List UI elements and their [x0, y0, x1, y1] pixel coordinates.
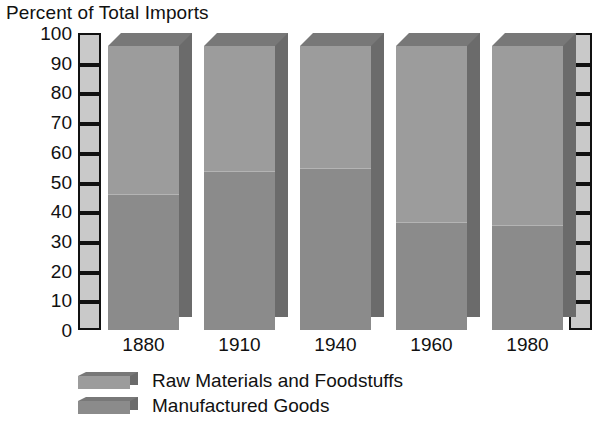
bar-segment-divider — [396, 222, 467, 223]
y-axis-tick-mark — [78, 92, 101, 96]
y-axis-tick-mark — [78, 63, 101, 67]
legend-swatch — [78, 397, 138, 414]
bar-segment-raw-materials[interactable] — [492, 46, 563, 225]
y-axis-left-scale — [78, 33, 101, 330]
x-axis-tick-label: 1980 — [506, 334, 548, 356]
legend-item[interactable]: Raw Materials and Foodstuffs — [78, 368, 558, 393]
bar-column-1880[interactable] — [108, 33, 192, 330]
y-axis-tick-mark — [78, 152, 101, 156]
x-axis-tick-label: 1960 — [410, 334, 452, 356]
bar-column-1910[interactable] — [204, 33, 288, 330]
bar-front-face — [396, 46, 467, 330]
bar-segment-divider — [300, 168, 371, 169]
y-axis-tick-labels: 1009080706050403020100 — [6, 26, 72, 338]
y-axis-tick-mark — [78, 271, 101, 275]
legend-swatch — [78, 372, 138, 389]
y-axis-tick-mark — [78, 211, 101, 215]
x-axis-tick-label: 1910 — [218, 334, 260, 356]
y-axis-tick-mark — [78, 300, 101, 304]
y-axis-tick-label: 30 — [51, 231, 72, 250]
x-axis-tick-label: 1880 — [122, 334, 164, 356]
legend-swatch-top — [78, 397, 138, 402]
legend-swatch-front — [78, 401, 130, 414]
bar-column-1940[interactable] — [300, 33, 384, 330]
y-axis-tick-mark — [78, 241, 101, 245]
bar-segment-manufactured-goods[interactable] — [300, 168, 371, 330]
legend-label: Manufactured Goods — [152, 395, 329, 417]
plot-area — [78, 33, 592, 330]
y-axis-tick-label: 40 — [51, 202, 72, 221]
bar-front-face — [204, 46, 275, 330]
y-axis-tick-label: 0 — [61, 321, 72, 340]
bar-segment-raw-materials[interactable] — [300, 46, 371, 168]
bar-front-face — [108, 46, 179, 330]
bar-segment-raw-materials[interactable] — [396, 46, 467, 222]
bar-side-face — [179, 33, 192, 317]
legend-label: Raw Materials and Foodstuffs — [152, 370, 403, 392]
y-axis-tick-label: 50 — [51, 172, 72, 191]
y-axis-tick-label: 100 — [40, 24, 72, 43]
bar-side-face — [371, 33, 384, 317]
y-axis-tick-label: 10 — [51, 291, 72, 310]
bar-segment-divider — [108, 194, 179, 195]
bar-segment-raw-materials[interactable] — [204, 46, 275, 171]
bar-segment-raw-materials[interactable] — [108, 46, 179, 194]
x-axis-tick-label: 1940 — [314, 334, 356, 356]
bar-segment-divider — [492, 225, 563, 226]
bar-column-1960[interactable] — [396, 33, 480, 330]
bar-segment-manufactured-goods[interactable] — [492, 225, 563, 330]
x-axis-tick-labels: 18801910194019601980 — [78, 334, 592, 364]
bar-side-face — [275, 33, 288, 317]
bar-segment-divider — [204, 171, 275, 172]
y-axis-tick-label: 80 — [51, 83, 72, 102]
bar-front-face — [300, 46, 371, 330]
legend-swatch-front — [78, 376, 130, 389]
legend-item[interactable]: Manufactured Goods — [78, 393, 558, 418]
chart-legend: Raw Materials and FoodstuffsManufactured… — [78, 368, 558, 418]
y-axis-tick-label: 60 — [51, 142, 72, 161]
page-title: Percent of Total Imports — [6, 2, 209, 24]
y-axis-tick-label: 70 — [51, 113, 72, 132]
y-axis-tick-mark — [78, 182, 101, 186]
bar-segment-manufactured-goods[interactable] — [396, 222, 467, 330]
bar-side-face — [563, 33, 576, 317]
legend-swatch-top — [78, 372, 138, 377]
y-axis-tick-label: 90 — [51, 53, 72, 72]
bar-segment-manufactured-goods[interactable] — [108, 194, 179, 330]
y-axis-tick-mark — [78, 122, 101, 126]
bar-side-face — [467, 33, 480, 317]
y-axis-tick-label: 20 — [51, 261, 72, 280]
bar-column-1980[interactable] — [492, 33, 576, 330]
bar-front-face — [492, 46, 563, 330]
bar-segment-manufactured-goods[interactable] — [204, 171, 275, 330]
